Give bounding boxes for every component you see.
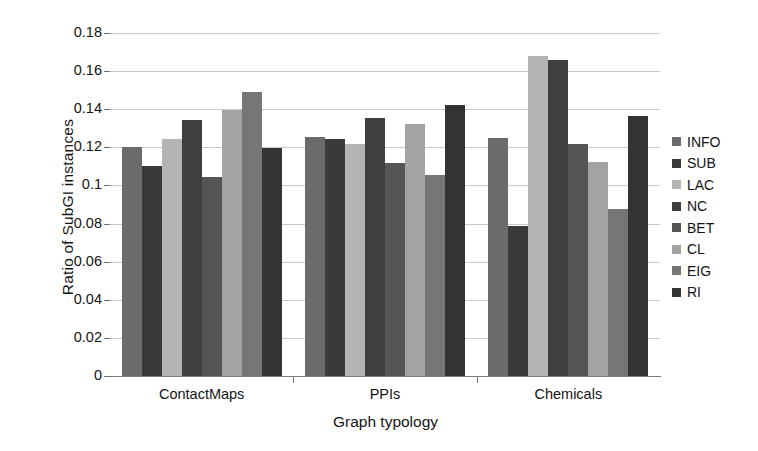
bar <box>608 209 628 376</box>
bar <box>222 110 242 376</box>
legend-swatch-icon <box>672 223 681 232</box>
legend-item: NC <box>672 196 720 218</box>
bar-group <box>110 33 293 376</box>
bar <box>182 120 202 376</box>
bar <box>262 148 282 376</box>
bar <box>365 118 385 376</box>
bar <box>242 92 262 376</box>
y-axis-tick-label: 0.06 <box>42 253 102 269</box>
legend-swatch-icon <box>672 180 681 189</box>
bar <box>528 56 548 376</box>
legend-label: INFO <box>687 135 720 149</box>
x-axis-category-label: PPIs <box>293 386 476 402</box>
legend-item: SUB <box>672 153 720 175</box>
legend-label: SUB <box>687 156 716 170</box>
x-axis-category-label: ContactMaps <box>110 386 293 402</box>
legend-swatch-icon <box>672 245 681 254</box>
bar <box>628 116 648 376</box>
bar <box>162 139 182 376</box>
plot-area <box>110 33 660 376</box>
bar <box>405 124 425 376</box>
legend-swatch-icon <box>672 288 681 297</box>
legend-item: CL <box>672 239 720 261</box>
y-axis-tick-label: 0.1 <box>42 176 102 192</box>
y-axis-tick-label: 0.04 <box>42 291 102 307</box>
bar <box>588 162 608 376</box>
y-axis-title: Ratio of SubGI instances <box>59 47 77 367</box>
bar <box>425 175 445 376</box>
y-axis-tick-label: 0.02 <box>42 329 102 345</box>
x-axis-separator <box>293 376 294 383</box>
legend-label: LAC <box>687 178 714 192</box>
legend-swatch-icon <box>672 266 681 275</box>
legend-item: LAC <box>672 174 720 196</box>
legend-label: RI <box>687 285 701 299</box>
y-axis-tick-label: 0.08 <box>42 215 102 231</box>
bar <box>508 226 528 376</box>
legend-swatch-icon <box>672 159 681 168</box>
x-axis-separator <box>477 376 478 383</box>
y-axis-tick-label: 0.12 <box>42 138 102 154</box>
y-axis-tick-label: 0.16 <box>42 62 102 78</box>
bar <box>122 147 142 376</box>
y-axis-tick-label: 0.18 <box>42 24 102 40</box>
legend: INFOSUBLACNCBETCLEIGRI <box>672 131 720 303</box>
legend-item: INFO <box>672 131 720 153</box>
y-axis-tick-label: 0 <box>42 367 102 383</box>
legend-label: EIG <box>687 264 711 278</box>
legend-swatch-icon <box>672 137 681 146</box>
bar <box>488 138 508 376</box>
bar-group <box>293 33 476 376</box>
bar <box>345 144 365 376</box>
x-axis-line <box>110 376 661 377</box>
bar <box>202 177 222 376</box>
x-axis-title: Graph typology <box>110 413 661 431</box>
legend-swatch-icon <box>672 202 681 211</box>
y-axis-tick-label: 0.14 <box>42 100 102 116</box>
bar <box>142 166 162 376</box>
bar <box>385 163 405 376</box>
bar <box>325 139 345 376</box>
legend-item: EIG <box>672 260 720 282</box>
legend-label: NC <box>687 199 707 213</box>
bar <box>305 137 325 376</box>
bar-group <box>477 33 660 376</box>
legend-label: CL <box>687 242 705 256</box>
bar <box>445 105 465 376</box>
bar-chart-figure: Ratio of SubGI instances 0.180.160.140.1… <box>0 0 758 451</box>
bar <box>568 144 588 376</box>
legend-label: BET <box>687 221 714 235</box>
x-axis-category-label: Chemicals <box>477 386 660 402</box>
legend-item: RI <box>672 282 720 304</box>
legend-item: BET <box>672 217 720 239</box>
bar <box>548 60 568 376</box>
